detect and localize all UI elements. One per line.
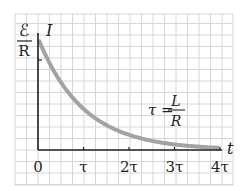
y-max-label-numerator: ℰ xyxy=(19,20,29,40)
x-axis-label: t xyxy=(227,139,234,158)
x-tick-label: 4τ xyxy=(211,158,229,176)
y-axis-label: I xyxy=(45,21,53,40)
x-tick-label: 2τ xyxy=(120,158,138,176)
rl-current-decay-chart: 0τ2τ3τ4τ ℰ R I t τ = L R xyxy=(0,0,250,191)
tau-definition-denominator: R xyxy=(170,113,182,129)
x-tick-label: 0 xyxy=(33,158,43,176)
x-tick-label: 3τ xyxy=(166,158,184,176)
y-max-label-denominator: R xyxy=(18,42,30,60)
tau-definition-numerator: L xyxy=(170,93,180,109)
x-tick-label: τ xyxy=(79,158,87,176)
